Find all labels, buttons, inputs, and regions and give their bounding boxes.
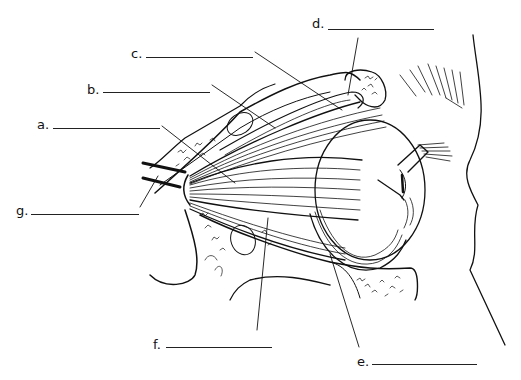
leader-lines	[140, 38, 359, 347]
lateral-rectus-muscle	[190, 157, 362, 220]
eye-muscle-diagram: a. b. c. d. e. f. g.	[0, 0, 521, 380]
label-a: a.	[37, 118, 49, 132]
label-f: f.	[153, 338, 161, 352]
optic-canal-lower	[143, 178, 180, 187]
eyebrow-hairs	[400, 64, 464, 108]
leader-c	[255, 52, 342, 110]
orbit-floor	[150, 210, 197, 284]
face-profile	[467, 35, 505, 345]
label-c: c.	[131, 47, 142, 61]
blank-d[interactable]	[328, 29, 434, 30]
orbit-roof	[155, 73, 360, 193]
annulus-of-zinn	[184, 175, 190, 205]
pupil	[402, 175, 403, 192]
eyelashes	[418, 143, 452, 161]
blank-b[interactable]	[103, 92, 210, 93]
maxillary-sinus	[227, 222, 260, 258]
label-d: d.	[312, 17, 324, 31]
blank-e[interactable]	[372, 364, 477, 365]
label-e: e.	[357, 355, 369, 369]
blank-g[interactable]	[31, 214, 139, 215]
superior-oblique-tendon	[220, 92, 363, 150]
upper-eyelid	[398, 145, 428, 172]
label-g: g.	[16, 204, 28, 218]
leader-d	[348, 38, 358, 95]
anatomy-illustration	[0, 0, 521, 380]
leader-b	[212, 85, 275, 128]
lower-eyelid	[378, 180, 404, 200]
lower-lashes	[404, 198, 413, 228]
label-b: b.	[87, 83, 99, 97]
eyeball	[315, 120, 425, 260]
blank-f[interactable]	[166, 347, 272, 348]
leader-a	[162, 126, 235, 183]
blank-a[interactable]	[53, 128, 160, 129]
blank-c[interactable]	[146, 57, 253, 58]
leader-f	[257, 218, 268, 330]
